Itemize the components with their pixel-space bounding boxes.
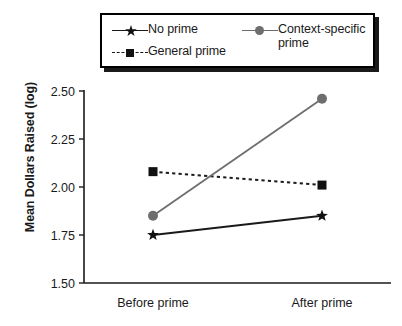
data-point-marker	[318, 181, 327, 190]
x-tick-label: Before prime	[117, 296, 189, 310]
y-tick-group: 1.501.752.002.252.50	[51, 85, 84, 291]
y-tick-label: 2.25	[51, 133, 75, 147]
axis-group	[84, 90, 391, 283]
series-line-no-prime	[153, 216, 322, 235]
data-point-marker	[149, 167, 158, 176]
plot-area: 1.501.752.002.252.50 Before primeAfter p…	[0, 0, 402, 326]
data-point-marker	[316, 210, 328, 221]
series-group	[147, 94, 328, 240]
series-line-general-prime	[153, 172, 322, 185]
data-point-marker	[317, 94, 327, 104]
y-tick-label: 2.50	[51, 85, 75, 99]
chart-figure: No prime General prime Context-specific …	[0, 0, 402, 326]
data-point-marker	[147, 229, 159, 240]
y-tick-label: 1.75	[51, 229, 75, 243]
x-tick-label: After prime	[291, 296, 352, 310]
x-tick-group: Before primeAfter prime	[117, 296, 352, 310]
data-point-marker	[148, 211, 158, 221]
series-line-context-specific-prime	[153, 99, 322, 216]
y-tick-label: 2.00	[51, 181, 75, 195]
y-tick-label: 1.50	[51, 277, 75, 291]
